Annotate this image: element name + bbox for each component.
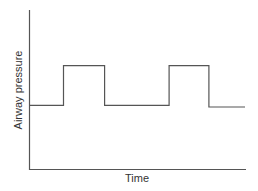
airway-pressure-chart: Airway pressure Time — [0, 0, 258, 191]
y-axis-label: Airway pressure — [12, 51, 24, 130]
pressure-waveform — [30, 66, 245, 107]
x-axis-label: Time — [125, 172, 149, 184]
